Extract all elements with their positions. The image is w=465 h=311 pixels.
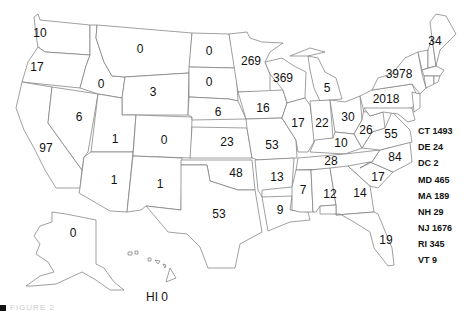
state-label-nc: 84 [388,151,401,163]
state-label-va: 55 [384,128,397,140]
state-label-ga: 14 [353,187,366,199]
state-label-mn: 269 [241,55,261,67]
state-label-co: 0 [161,134,168,146]
state-label-wy: 3 [150,86,157,98]
state-label-or: 17 [30,61,43,73]
state-ak [26,212,124,290]
state-label-hi: HI 0 [146,291,168,303]
state-label-la: 9 [277,204,284,216]
state-label-ks: 23 [220,136,233,148]
state-label-al: 12 [323,188,336,200]
side-label: CT 1493 [418,127,453,136]
side-label: RI 345 [418,240,445,249]
caption-text: FIGURE 2 [10,303,55,311]
state-label-wi: 369 [273,72,293,84]
state-label-nv: 6 [76,111,83,123]
state-label-az: 1 [111,174,118,186]
state-label-fl: 19 [379,234,392,246]
state-label-ok: 48 [229,167,242,179]
state-mt [96,25,192,77]
figure-caption: FIGURE 2 [0,304,55,311]
state-label-ny: 3978 [386,68,413,80]
state-az [79,152,133,212]
state-label-mt: 0 [137,43,144,55]
state-nm [127,156,182,212]
state-label-sc: 17 [371,171,384,183]
state-label-il: 17 [291,117,304,129]
state-label-id: 0 [98,78,105,90]
state-sd [189,67,238,101]
side-label: VT 9 [418,256,437,265]
state-label-mi: 5 [324,82,331,94]
state-label-ar: 13 [270,171,283,183]
state-label-me: 34 [428,35,441,47]
state-label-sd: 0 [206,76,213,88]
side-label: NH 29 [418,208,444,217]
state-ri [434,76,440,84]
state-label-pa: 2018 [373,93,400,105]
state-label-nm: 1 [157,178,164,190]
state-label-wa: 10 [33,27,46,39]
state-label-mo: 53 [265,139,278,151]
state-label-in: 22 [315,117,328,129]
state-label-nd: 0 [206,45,213,57]
caption-marker [0,305,6,311]
state-nj [412,92,420,112]
side-label: MD 465 [418,176,450,185]
state-label-tn: 28 [324,155,337,167]
side-label: NJ 1676 [418,224,452,233]
state-label-oh: 30 [341,111,354,123]
state-label-wv: 26 [359,124,372,136]
side-label: DE 24 [418,143,443,152]
state-label-ak: 0 [70,227,77,239]
state-label-ca: 97 [39,142,52,154]
state-label-ia: 16 [256,102,269,114]
state-label-ut: 1 [112,133,119,145]
state-label-ne: 6 [215,106,222,118]
state-label-ms: 7 [300,184,307,196]
side-label: MA 189 [418,192,449,201]
state-ct [424,76,434,88]
state-hi [128,251,176,282]
side-label: DC 2 [418,159,439,168]
state-label-tx: 53 [212,208,225,220]
state-label-ky: 10 [334,137,347,149]
